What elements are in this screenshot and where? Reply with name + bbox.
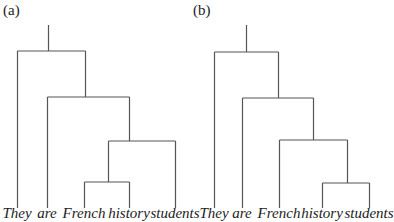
leaf-a-they: They bbox=[2, 205, 31, 222]
panel-label-a: (a) bbox=[3, 2, 20, 19]
tree-a bbox=[18, 25, 176, 208]
leaf-b-are: are bbox=[232, 205, 251, 222]
leaf-b-they: They bbox=[199, 205, 228, 222]
leaf-b-history: history bbox=[301, 205, 343, 222]
leaf-a-students: students bbox=[150, 205, 199, 222]
leaf-a-french: French bbox=[63, 205, 106, 222]
leaf-b-french: French bbox=[258, 205, 301, 222]
leaf-a-are: are bbox=[37, 205, 56, 222]
leaf-b-students: students bbox=[344, 205, 393, 222]
tree-b bbox=[215, 25, 370, 208]
panel-label-b: (b) bbox=[193, 2, 211, 19]
leaf-a-history: history bbox=[108, 205, 150, 222]
